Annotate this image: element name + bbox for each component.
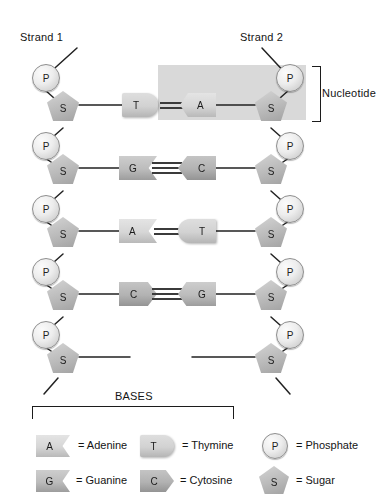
- sugar-symbol: S: [268, 166, 275, 177]
- legend-text-thymine: = Thymine: [182, 439, 233, 451]
- legend-text-cytosine: = Cytosine: [180, 474, 232, 486]
- base-letter: C: [130, 289, 137, 300]
- legend-text-phosphate: = Phosphate: [296, 439, 358, 451]
- sugar-symbol: S: [60, 292, 67, 303]
- phosphate-symbol: P: [287, 73, 294, 84]
- phosphate-symbol: P: [287, 141, 294, 152]
- legend-title: BASES: [115, 390, 153, 402]
- base-letter: A: [129, 226, 136, 237]
- base-letter: G: [129, 163, 137, 174]
- sugar-symbol: S: [60, 166, 67, 177]
- phosphate-right-5: P: [276, 321, 304, 349]
- sugar-symbol: S: [268, 292, 275, 303]
- phosphate-left-1: P: [32, 64, 60, 92]
- phosphate-symbol: P: [287, 204, 294, 215]
- sugar-symbol: S: [268, 355, 275, 366]
- phosphate-symbol: P: [43, 330, 50, 341]
- base-letter: T: [133, 100, 139, 111]
- base-letter: A: [197, 100, 204, 111]
- hydrogen-bond-row-2: [152, 156, 182, 180]
- legend-symbol-cytosine: C: [150, 476, 157, 487]
- phosphate-right-2: P: [276, 132, 304, 160]
- hydrogen-bond-row-3: [154, 219, 180, 243]
- legend-symbol-phosphate: P: [272, 441, 279, 452]
- legend-shape-thymine: T: [140, 435, 174, 457]
- sugar-right-3: S: [255, 217, 287, 247]
- base-right-row-2: C: [178, 156, 216, 180]
- sugar-symbol: S: [60, 229, 67, 240]
- sugar-right-4: S: [255, 280, 287, 310]
- phosphate-symbol: P: [287, 330, 294, 341]
- legend-symbol-guanine: G: [46, 476, 54, 487]
- phosphate-left-2: P: [32, 132, 60, 160]
- phosphate-left-3: P: [32, 195, 60, 223]
- sugar-right-5: S: [255, 343, 287, 373]
- legend-text-guanine: = Guanine: [76, 474, 127, 486]
- base-left-row-1: T: [122, 93, 158, 117]
- base-letter: C: [198, 163, 205, 174]
- phosphate-symbol: P: [43, 267, 50, 278]
- phosphate-left-5: P: [32, 321, 60, 349]
- phosphate-symbol: P: [287, 267, 294, 278]
- phosphate-right-3: P: [276, 195, 304, 223]
- base-left-row-3: A: [119, 219, 157, 243]
- legend-shape-adenine: A: [36, 435, 70, 457]
- sugar-left-1: S: [47, 91, 79, 121]
- sugar-symbol: S: [268, 229, 275, 240]
- legend-symbol-adenine: A: [46, 441, 53, 452]
- legend-text-sugar: = Sugar: [296, 474, 335, 486]
- hydrogen-bond-row-4: [152, 282, 182, 306]
- strand-1-label: Strand 1: [20, 31, 63, 43]
- legend-symbol-sugar: S: [271, 477, 278, 488]
- sugar-symbol: S: [268, 103, 275, 114]
- base-right-row-3: T: [178, 219, 216, 243]
- sugar-right-2: S: [255, 154, 287, 184]
- legend-shape-cytosine: C: [140, 470, 174, 492]
- legend-text-adenine: = Adenine: [78, 439, 127, 451]
- phosphate-symbol: P: [43, 73, 50, 84]
- phosphate-right-1: P: [276, 64, 304, 92]
- legend-symbol-thymine: T: [150, 441, 156, 452]
- sugar-symbol: S: [60, 355, 67, 366]
- base-letter: T: [199, 226, 205, 237]
- base-right-row-4: G: [178, 282, 216, 306]
- phosphate-symbol: P: [43, 204, 50, 215]
- phosphate-left-4: P: [32, 258, 60, 286]
- bases-bracket: [32, 406, 234, 419]
- legend-shape-phosphate: P: [262, 433, 288, 459]
- legend-shape-guanine: G: [36, 470, 70, 492]
- phosphate-symbol: P: [43, 141, 50, 152]
- phosphate-right-4: P: [276, 258, 304, 286]
- legend-shape-sugar: S: [259, 466, 289, 494]
- dna-structure-diagram: Strand 1 Strand 2 Nucleotide P S P S P S…: [0, 0, 387, 503]
- sugar-symbol: S: [60, 103, 67, 114]
- base-letter: G: [198, 289, 206, 300]
- nucleotide-bracket: [312, 66, 321, 122]
- strand-2-label: Strand 2: [240, 31, 283, 43]
- nucleotide-label: Nucleotide: [322, 87, 376, 99]
